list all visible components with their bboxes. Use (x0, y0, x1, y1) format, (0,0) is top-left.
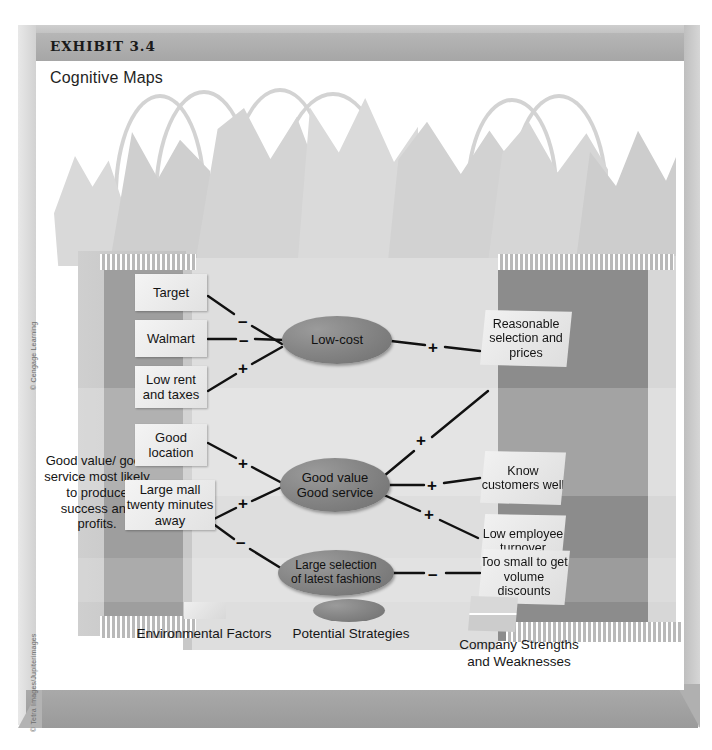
legend: Environmental Factors Potential Strategi… (36, 593, 684, 690)
company-strength-label: Reasonable selection and prices (480, 317, 572, 361)
legend-label-company-strengths: Company Strengths and Weaknesses (413, 637, 625, 671)
sign-goodlocation-goodvalue: + (238, 455, 248, 472)
strategy-good-value-good-service: Good value Good service (280, 458, 390, 512)
exhibit-card: EXHIBIT 3.4 Cognitive Maps (36, 33, 684, 690)
env-factor-walmart: Walmart (135, 320, 207, 357)
strategy-large-selection-latest-fashions: Large selection of latest fashions (278, 550, 394, 596)
env-factor-label: Large mall twenty minutes away (125, 482, 215, 527)
credit-photo-source: © Tetra Images/Jupiterimages (30, 633, 37, 732)
sign-goodvalue-reasonable: + (416, 432, 426, 449)
sign-target-lowcost: – (238, 313, 247, 330)
exhibit-page: EXHIBIT 3.4 Cognitive Maps (0, 0, 712, 750)
env-factor-low-rent-and-taxes: Low rent and taxes (135, 366, 207, 408)
strategy-low-cost: Low-cost (282, 316, 392, 364)
env-factor-label: Low rent and taxes (135, 372, 207, 402)
env-factor-large-mall: Large mall twenty minutes away (125, 480, 215, 530)
sign-largeselection-toosmall: – (428, 566, 437, 583)
strategy-label: Large selection of latest fashions (291, 559, 381, 587)
sign-largemall-largeselection: – (236, 534, 245, 551)
sign-largemall-goodvalue: + (238, 495, 248, 512)
env-factor-label: Walmart (147, 331, 195, 346)
company-strength-label: Know customers well (480, 464, 566, 493)
company-strength-reasonable-selection-and-prices: Reasonable selection and prices (480, 310, 572, 367)
company-strength-know-customers-well: Know customers well (480, 451, 566, 505)
legend-swatch-potential-strategies-icon (313, 599, 385, 622)
env-factor-good-location: Good location (135, 424, 207, 466)
sign-goodvalue-lowturnover: + (424, 506, 434, 523)
legend-swatch-environmental-factors-icon (184, 602, 226, 619)
sign-lowcost-reasonable: + (428, 339, 438, 356)
env-factor-label: Target (153, 285, 189, 300)
credit-cengage-learning: © Cengage Learning (30, 322, 37, 390)
sign-lowrent-lowcost: + (238, 360, 248, 377)
strategy-label: Good value Good service (297, 470, 374, 500)
legend-swatch-company-strengths-icon (468, 596, 518, 632)
env-factor-label: Good location (135, 430, 207, 460)
cognitive-map-diagram: Good value/ good service most likely to … (36, 33, 684, 635)
strategy-label: Low-cost (311, 332, 363, 347)
sign-walmart-lowcost: – (239, 332, 248, 349)
sign-goodvalue-know: + (427, 477, 437, 494)
env-factor-target: Target (135, 274, 207, 311)
frame-edge-bottom (26, 690, 698, 728)
frame-edge-right (684, 25, 700, 727)
